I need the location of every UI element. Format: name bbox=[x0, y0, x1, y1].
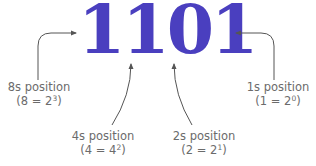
label-1s-position: 1s position (1 = 20) bbox=[233, 80, 316, 108]
label-1s-title: 1s position bbox=[233, 80, 316, 94]
arrow-1s bbox=[236, 33, 274, 80]
label-4s-title: 4s position bbox=[58, 129, 148, 143]
label-8s-title: 8s position bbox=[0, 80, 84, 94]
label-1s-expr: (1 = 20) bbox=[233, 94, 316, 108]
label-4s-position: 4s position (4 = 42) bbox=[58, 129, 148, 157]
label-8s-expr: (8 = 23) bbox=[0, 94, 84, 108]
label-2s-position: 2s position (2 = 21) bbox=[159, 129, 249, 157]
label-2s-expr: (2 = 21) bbox=[159, 143, 249, 157]
label-2s-title: 2s position bbox=[159, 129, 249, 143]
arrow-4s bbox=[112, 64, 131, 125]
arrow-8s bbox=[38, 33, 76, 80]
label-4s-expr: (4 = 42) bbox=[58, 143, 148, 157]
label-8s-position: 8s position (8 = 23) bbox=[0, 80, 84, 108]
arrow-2s bbox=[174, 64, 192, 125]
